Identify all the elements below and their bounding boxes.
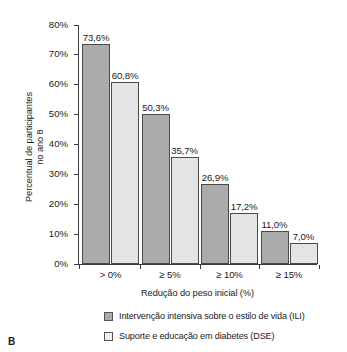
legend-swatch-ili — [104, 312, 113, 321]
x-tick-label: ≥ 15% — [261, 269, 318, 280]
y-tick-label: 0% — [34, 258, 68, 269]
y-tick: 70% — [74, 54, 78, 55]
x-tick — [319, 265, 320, 269]
bar-value-label: 60,8% — [112, 70, 139, 81]
bar-dse-0[interactable]: 60,8% — [111, 82, 139, 264]
y-tick: 10% — [74, 234, 78, 235]
y-tick: 20% — [74, 204, 78, 205]
bar-dse-2[interactable]: 17,2% — [230, 213, 258, 264]
x-tick-label: > 0% — [82, 269, 139, 280]
y-axis-line — [78, 25, 79, 265]
bar-value-label: 26,9% — [202, 172, 229, 183]
y-tick: 80% — [74, 25, 78, 26]
bar-dse-1[interactable]: 35,7% — [171, 157, 199, 264]
y-tick-label: 80% — [34, 19, 68, 30]
y-tick-label: 20% — [34, 198, 68, 209]
legend-label: Suporte e educação em diabetes (DSE) — [119, 331, 274, 341]
x-tick-label: ≥ 10% — [201, 269, 258, 280]
y-tick: 30% — [74, 174, 78, 175]
bar-ili-0[interactable]: 73,6% — [82, 44, 110, 264]
bar-ili-3[interactable]: 11,0% — [261, 231, 289, 264]
bar-value-label: 11,0% — [262, 219, 288, 230]
y-tick: 0% — [74, 264, 78, 265]
figure-panel-b: Percentual de participantes no ano 8 0%1… — [0, 0, 347, 352]
bar-value-label: 7,0% — [293, 231, 314, 242]
bar-group: 26,9%17,2% — [201, 25, 258, 264]
bar-value-label: 73,6% — [83, 32, 110, 43]
bar-ili-1[interactable]: 50,3% — [142, 114, 170, 264]
y-tick-label: 30% — [34, 168, 68, 179]
legend-swatch-dse — [104, 332, 113, 341]
legend-item-ili[interactable]: Intervenção intensiva sobre o estilo de … — [104, 306, 344, 326]
x-tick — [79, 265, 80, 269]
bar-group: 50,3%35,7% — [142, 25, 199, 264]
y-tick-label: 60% — [34, 78, 68, 89]
bar-group: 73,6%60,8% — [82, 25, 139, 264]
legend-item-dse[interactable]: Suporte e educação em diabetes (DSE) — [104, 326, 344, 346]
bar-group: 11,0%7,0% — [261, 25, 318, 264]
plot-area: 0%10%20%30%40%50%60%70%80% 73,6%60,8%50,… — [78, 25, 317, 265]
chart-legend: Intervenção intensiva sobre o estilo de … — [104, 306, 344, 346]
x-axis-line — [78, 264, 317, 265]
x-axis-title: Redução do peso inicial (%) — [78, 288, 317, 298]
bar-value-label: 50,3% — [142, 102, 169, 113]
legend-label: Intervenção intensiva sobre o estilo de … — [119, 311, 305, 321]
bar-dse-3[interactable]: 7,0% — [290, 243, 318, 264]
bar-ili-2[interactable]: 26,9% — [201, 184, 229, 264]
y-tick-label: 70% — [34, 48, 68, 59]
y-tick: 50% — [74, 114, 78, 115]
y-tick: 40% — [74, 144, 78, 145]
panel-letter: B — [8, 336, 15, 347]
bar-value-label: 17,2% — [231, 201, 258, 212]
y-tick-label: 10% — [34, 228, 68, 239]
y-tick: 60% — [74, 84, 78, 85]
x-tick-label: ≥ 5% — [142, 269, 199, 280]
bar-value-label: 35,7% — [171, 145, 198, 156]
y-tick-label: 40% — [34, 138, 68, 149]
y-tick-label: 50% — [34, 108, 68, 119]
